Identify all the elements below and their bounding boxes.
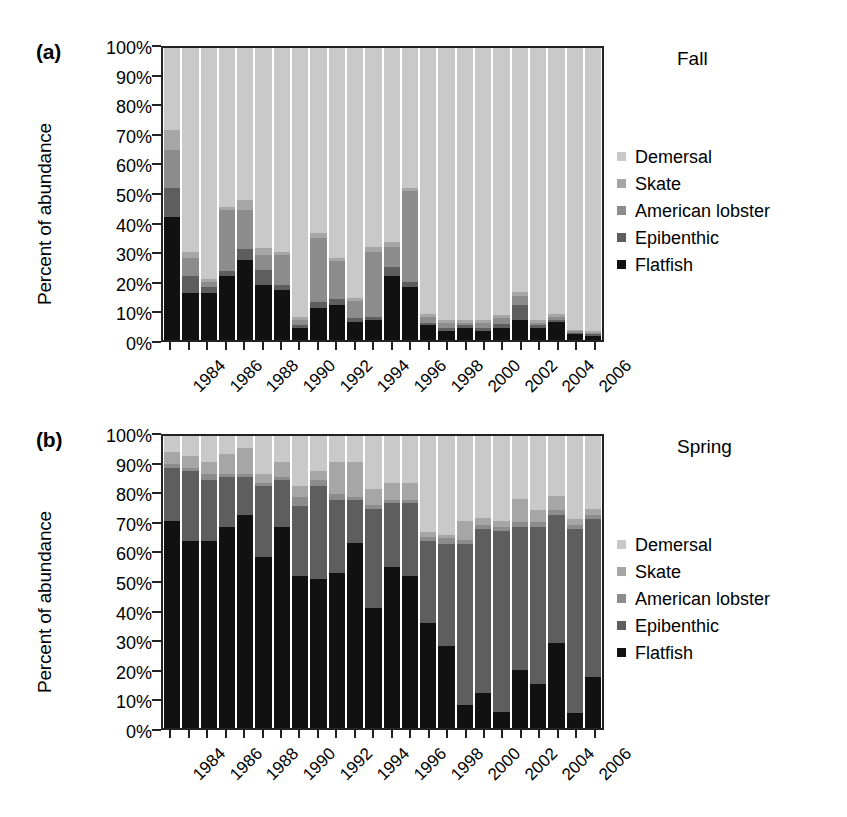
legend-item-skate[interactable]: Skate: [617, 170, 770, 197]
bar-1991[interactable]: [291, 48, 309, 340]
y-tick-label: 20%: [86, 664, 152, 682]
bar-1991[interactable]: [291, 436, 309, 728]
bar-segment-demersal: [237, 436, 253, 448]
bar-2007[interactable]: [584, 436, 602, 728]
legend-swatch-icon: [617, 567, 626, 576]
legend-items-spring: DemersalSkateAmerican lobsterEpibenthicF…: [617, 531, 770, 666]
bar-segment-flatfish: [384, 567, 400, 728]
bar-1989[interactable]: [254, 48, 272, 340]
bar-1993[interactable]: [328, 436, 346, 728]
bar-segment-skate: [219, 454, 235, 474]
bar-1995[interactable]: [364, 436, 382, 728]
bar-1989[interactable]: [254, 436, 272, 728]
bar-1986[interactable]: [200, 48, 218, 340]
bar-2001[interactable]: [474, 48, 492, 340]
bar-segment-flatfish: [420, 325, 436, 340]
bar-2006[interactable]: [566, 48, 584, 340]
bar-1985[interactable]: [181, 436, 199, 728]
bar-1993[interactable]: [328, 48, 346, 340]
bar-2005[interactable]: [547, 436, 565, 728]
bar-1990[interactable]: [273, 436, 291, 728]
bar-1994[interactable]: [346, 48, 364, 340]
x-tick-mark: [243, 730, 245, 738]
x-tick-label: 1990: [299, 744, 340, 785]
bar-segment-skate: [347, 462, 363, 497]
bar-1994[interactable]: [346, 436, 364, 728]
bar-2002[interactable]: [492, 436, 510, 728]
bar-1986[interactable]: [200, 436, 218, 728]
bar-2004[interactable]: [529, 436, 547, 728]
bar-1999[interactable]: [437, 48, 455, 340]
x-tick-mark: [188, 342, 190, 350]
x-tick-mark: [428, 730, 430, 738]
y-tick-mark: [152, 699, 161, 701]
bar-1997[interactable]: [401, 48, 419, 340]
bar-1998[interactable]: [419, 48, 437, 340]
bar-2000[interactable]: [456, 48, 474, 340]
bar-segment-demersal: [567, 48, 583, 330]
bar-segment-epibenthic: [347, 500, 363, 542]
x-tick-label: 1994: [373, 744, 414, 785]
bar-1984[interactable]: [163, 48, 181, 340]
bar-1985[interactable]: [181, 48, 199, 340]
legend-item-flatfish[interactable]: Flatfish: [617, 251, 770, 278]
bar-2000[interactable]: [456, 436, 474, 728]
bar-1987[interactable]: [218, 436, 236, 728]
x-tick-label: 1992: [336, 744, 377, 785]
y-tick-mark: [152, 193, 161, 195]
bar-segment-flatfish: [438, 331, 454, 340]
y-tick-label: 30%: [86, 246, 152, 264]
bar-segment-american-lobster: [402, 191, 418, 282]
bar-segment-demersal: [457, 436, 473, 521]
bar-1999[interactable]: [437, 436, 455, 728]
bar-2005[interactable]: [547, 48, 565, 340]
legend-item-american-lobster[interactable]: American lobster: [617, 585, 770, 612]
bar-segment-flatfish: [457, 705, 473, 728]
bar-1990[interactable]: [273, 48, 291, 340]
bar-1998[interactable]: [419, 436, 437, 728]
bar-segment-flatfish: [219, 276, 235, 340]
bar-segment-flatfish: [219, 527, 235, 729]
y-tick-mark: [152, 640, 161, 642]
bar-2007[interactable]: [584, 48, 602, 340]
legend-item-american-lobster[interactable]: American lobster: [617, 197, 770, 224]
x-tick-mark: [317, 730, 319, 738]
y-tick-mark: [152, 611, 161, 613]
y-axis-label-a: Percent of abundance: [34, 123, 56, 305]
bar-1996[interactable]: [383, 48, 401, 340]
legend-label: Demersal: [635, 536, 712, 554]
legend-label: Demersal: [635, 148, 712, 166]
legend-item-epibenthic[interactable]: Epibenthic: [617, 224, 770, 251]
bar-2001[interactable]: [474, 436, 492, 728]
bar-1996[interactable]: [383, 436, 401, 728]
bar-1997[interactable]: [401, 436, 419, 728]
bar-2003[interactable]: [511, 436, 529, 728]
legend-item-demersal[interactable]: Demersal: [617, 531, 770, 558]
x-tick-mark: [206, 342, 208, 350]
bar-1984[interactable]: [163, 436, 181, 728]
bar-1992[interactable]: [309, 436, 327, 728]
x-tick-mark: [262, 730, 264, 738]
bar-segment-demersal: [347, 48, 363, 298]
x-tick-mark: [575, 342, 577, 350]
bar-segment-american-lobster: [182, 258, 198, 276]
legend-item-skate[interactable]: Skate: [617, 558, 770, 585]
legend-item-demersal[interactable]: Demersal: [617, 143, 770, 170]
legend-item-epibenthic[interactable]: Epibenthic: [617, 612, 770, 639]
legend-item-flatfish[interactable]: Flatfish: [617, 639, 770, 666]
legend-swatch-icon: [617, 233, 626, 242]
bar-1987[interactable]: [218, 48, 236, 340]
bar-segment-american-lobster: [365, 252, 381, 316]
bar-2002[interactable]: [492, 48, 510, 340]
bar-2004[interactable]: [529, 48, 547, 340]
y-tick-mark: [152, 75, 161, 77]
bar-segment-flatfish: [347, 543, 363, 728]
bar-1988[interactable]: [236, 436, 254, 728]
bar-2003[interactable]: [511, 48, 529, 340]
bar-1992[interactable]: [309, 48, 327, 340]
bar-1988[interactable]: [236, 48, 254, 340]
bar-2006[interactable]: [566, 436, 584, 728]
bar-segment-flatfish: [585, 336, 601, 340]
bar-1995[interactable]: [364, 48, 382, 340]
bar-segment-flatfish: [274, 527, 290, 729]
